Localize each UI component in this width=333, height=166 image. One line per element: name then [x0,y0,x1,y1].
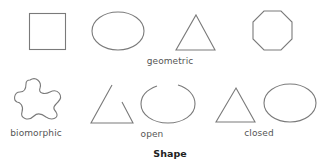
open-label: open [141,129,164,139]
closed-ellipse-shape [264,84,316,122]
shape-diagram [0,0,333,166]
biomorphic-blob-shape [15,79,61,119]
triangle-shape [176,15,215,50]
geometric-label: geometric [147,56,194,66]
biomorphic-label: biomorphic [10,128,62,138]
open-ellipse-shape [141,85,195,123]
square-shape [30,14,66,50]
open-triangle-shape [91,85,133,123]
closed-label: closed [244,128,274,138]
diagram-title: Shape [153,148,186,159]
ellipse-shape [92,12,144,50]
octagon-shape [253,11,292,50]
closed-triangle-shape [216,88,255,122]
